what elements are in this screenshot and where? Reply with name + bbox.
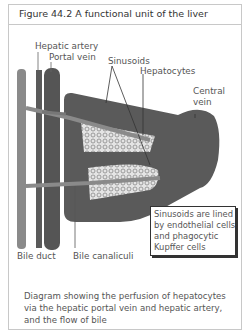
callout-line: Sinusoids are lined xyxy=(154,209,232,220)
hepatic-artery-vessel xyxy=(36,70,42,248)
label-portal-vein: Portal vein xyxy=(49,52,96,63)
lobule-tissue xyxy=(64,93,219,222)
label-bile-duct: Bile duct xyxy=(17,251,56,262)
label-hepatocytes: Hepatocytes xyxy=(140,66,195,77)
caption-line: Diagram showing the perfusion of hepatoc… xyxy=(24,290,234,302)
callout-line: Kupffer cells xyxy=(154,242,232,253)
bile-duct-vessel xyxy=(17,69,26,249)
callout-line: by endothelial cells xyxy=(154,220,232,231)
label-hepatic-artery: Hepatic artery xyxy=(35,41,98,52)
portal-vein-vessel xyxy=(44,68,60,250)
sinusoid-callout-box: Sinusoids are lined by endothelial cells… xyxy=(150,206,236,256)
label-central-vein-1: Central xyxy=(193,86,225,97)
label-bile-canaliculi: Bile canaliculi xyxy=(73,251,134,262)
callout-line: and phagocytic xyxy=(154,231,232,242)
label-central-vein-2: vein xyxy=(193,97,212,108)
caption-line: and the flow of bile xyxy=(24,314,234,326)
figure-caption: Diagram showing the perfusion of hepatoc… xyxy=(24,290,234,326)
caption-line: via the hepatic portal vein and hepatic … xyxy=(24,302,234,314)
